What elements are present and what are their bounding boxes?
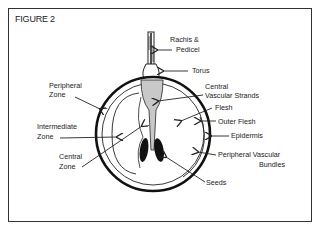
label-pedicel: Pedicel bbox=[176, 45, 200, 54]
label-central-vascular-2: Vascular Strands bbox=[205, 91, 260, 100]
label-intermediate-zone-2: Zone bbox=[37, 132, 53, 141]
label-peripheral-vascular-2: Bundles bbox=[259, 160, 285, 169]
label-central-zone-1: Central bbox=[59, 152, 83, 161]
label-peripheral-vascular-1: Peripheral Vascular bbox=[218, 150, 281, 159]
label-central-vascular-1: Central bbox=[205, 82, 229, 91]
label-flesh: Flesh bbox=[215, 103, 233, 112]
label-peripheral-zone-2: Zone bbox=[49, 90, 65, 99]
label-epidermis: Epidermis bbox=[231, 131, 263, 140]
label-outer-flesh: Outer Flesh bbox=[218, 117, 256, 126]
label-central-zone-2: Zone bbox=[59, 162, 75, 171]
label-seeds: Seeds bbox=[206, 178, 227, 187]
label-torus: Torus bbox=[192, 66, 210, 75]
label-rachis: Rachis & bbox=[170, 35, 199, 44]
arrow-peripheral-zone bbox=[75, 97, 100, 109]
fruit-diagram: Rachis & Pedicel Torus Central Vascular … bbox=[0, 0, 316, 227]
label-intermediate-zone-1: Intermediate bbox=[37, 122, 77, 131]
label-peripheral-zone-1: Peripheral bbox=[49, 81, 82, 90]
